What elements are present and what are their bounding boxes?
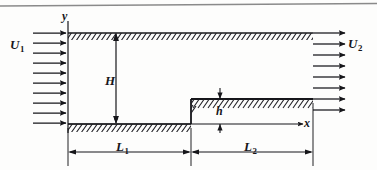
step-height-label: h — [216, 105, 223, 117]
step-hatching — [185, 98, 320, 122]
upstream-length-label: L1 — [116, 140, 128, 153]
step-block — [185, 98, 320, 124]
top-wall — [66, 32, 317, 41]
outlet-velocity-label: U2 — [348, 37, 362, 50]
downstream-length-label: L2 — [244, 140, 256, 153]
diagram-svg — [0, 0, 377, 170]
inlet-velocity-arrows — [33, 33, 66, 123]
y-axis-label: y — [62, 10, 67, 22]
scan-rule — [0, 4, 377, 7]
dimension-L1 — [68, 149, 191, 154]
outlet-velocity-arrows — [313, 33, 345, 110]
figure-canvas: U1 U2 y x H h L1 L2 — [0, 0, 377, 170]
channel-height-label: H — [105, 74, 115, 87]
x-axis-label: x — [304, 117, 310, 129]
inlet-velocity-label: U1 — [10, 38, 24, 51]
